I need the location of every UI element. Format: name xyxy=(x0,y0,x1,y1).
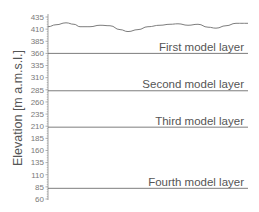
model-layers: First model layerSecond model layerThird… xyxy=(48,41,248,188)
model-layer-label: First model layer xyxy=(159,41,244,53)
y-tick-label: 185 xyxy=(31,134,45,143)
model-layer-label: Second model layer xyxy=(142,78,244,90)
y-tick-label: 385 xyxy=(31,37,45,46)
ground-surface-path xyxy=(48,23,248,32)
y-tick-label: 135 xyxy=(31,158,45,167)
y-tick-label: 235 xyxy=(31,110,45,119)
y-ticks: 4354103853603353102852602352101851601351… xyxy=(31,13,48,204)
y-tick-label: 260 xyxy=(31,98,45,107)
y-tick-label: 285 xyxy=(31,86,45,95)
y-axis-title: Elevation [m a.m.s.l.] xyxy=(11,50,25,166)
y-tick-label: 160 xyxy=(31,146,45,155)
y-tick-label: 335 xyxy=(31,61,45,70)
y-tick-label: 360 xyxy=(31,49,45,58)
y-tick-label: 60 xyxy=(35,195,44,204)
y-tick-label: 310 xyxy=(31,73,45,82)
y-tick-label: 435 xyxy=(31,13,45,22)
y-tick-label: 410 xyxy=(31,25,45,34)
model-layer-label: Third model layer xyxy=(155,115,244,127)
y-tick-label: 110 xyxy=(31,171,44,180)
y-tick-label: 85 xyxy=(35,183,44,192)
y-tick-label: 210 xyxy=(31,122,45,131)
ground-surface-line xyxy=(48,23,248,32)
elevation-chart: 4354103853603353102852602352101851601351… xyxy=(0,0,259,212)
model-layer-label: Fourth model layer xyxy=(148,176,244,188)
